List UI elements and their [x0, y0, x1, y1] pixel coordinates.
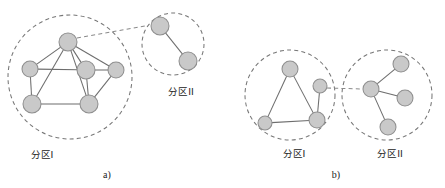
- nodes-b-partition-2: [363, 56, 413, 135]
- edge-b1-n1-b1-n3: [268, 76, 287, 117]
- edge-b2-n1-b2-n2: [377, 69, 395, 84]
- graph-node-b2-n4[interactable]: [380, 119, 396, 135]
- graph-node-b2-n3[interactable]: [397, 90, 413, 106]
- nodes-a-partition-1: [22, 33, 124, 113]
- edge-b1-n3-b1-n4: [271, 120, 309, 122]
- edge-a1-n3-a1-n6: [87, 78, 89, 95]
- figure-container: 分区I分区IIa)分区I分区IIb): [0, 0, 445, 188]
- graph-node-a1-n4[interactable]: [108, 62, 124, 78]
- edges-b-partition-2: [374, 69, 398, 120]
- panel-caption-panel-a: a): [103, 169, 111, 181]
- panel-b: 分区I分区IIb): [245, 50, 432, 181]
- cluster-label-b-partition-1: 分区I: [283, 148, 306, 159]
- graph-node-a1-n5[interactable]: [23, 95, 41, 113]
- graph-node-b2-n1[interactable]: [363, 81, 379, 97]
- graph-node-a1-n2[interactable]: [22, 61, 38, 77]
- inter-partition-bridge-panel-a-0: [77, 26, 145, 38]
- edge-a2-n1-a2-n2: [165, 33, 182, 55]
- edges-a-partition-2: [165, 33, 182, 55]
- graph-node-a1-n6[interactable]: [80, 95, 98, 113]
- graph-node-b1-n3[interactable]: [258, 116, 272, 130]
- panel-a: 分区I分区IIa): [8, 13, 204, 181]
- graph-node-a1-n3[interactable]: [77, 61, 95, 79]
- edge-a1-n1-a1-n5: [36, 49, 63, 96]
- edge-a1-n1-a1-n2: [36, 47, 61, 65]
- edge-b1-n1-b1-n4: [294, 76, 314, 114]
- cluster-label-a-partition-2: 分区II: [168, 86, 194, 97]
- edge-a1-n4-a1-n6: [94, 76, 111, 97]
- edge-b2-n1-b2-n3: [378, 91, 397, 96]
- panel-caption-panel-b: b): [332, 169, 340, 181]
- partition-diagram: 分区I分区IIa)分区I分区IIb): [0, 0, 445, 188]
- graph-node-b1-n4[interactable]: [309, 112, 325, 128]
- graph-node-a1-n1[interactable]: [59, 33, 77, 51]
- graph-node-a2-n1[interactable]: [151, 17, 169, 35]
- nodes-b-partition-1: [258, 61, 327, 130]
- edge-b2-n1-b2-n4: [374, 96, 385, 120]
- inter-partition-bridge-panel-b-0: [327, 88, 363, 89]
- cluster-label-a-partition-1: 分区I: [31, 149, 54, 160]
- graph-node-b1-n1[interactable]: [282, 61, 298, 77]
- edge-b1-n2-b1-n4: [318, 92, 320, 112]
- edge-a1-n2-a1-n3: [37, 69, 77, 70]
- graph-node-b1-n2[interactable]: [313, 79, 327, 93]
- graph-node-b2-n2[interactable]: [393, 56, 409, 72]
- graph-node-a2-n2[interactable]: [179, 52, 197, 70]
- cluster-label-b-partition-2: 分区II: [377, 148, 403, 159]
- edge-a1-n2-a1-n5: [30, 76, 31, 95]
- edges-a-partition-1: [30, 46, 111, 104]
